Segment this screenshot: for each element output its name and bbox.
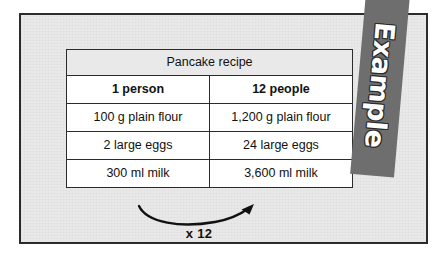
cell-flour-single: 100 g plain flour <box>67 104 210 132</box>
screenshot-root: Pancake recipe 1 person 12 people 100 g … <box>0 0 448 262</box>
column-header-12-people: 12 people <box>210 76 353 104</box>
table-row: 100 g plain flour 1,200 g plain flour <box>67 104 353 132</box>
column-header-1-person: 1 person <box>67 76 210 104</box>
scaling-annotation: x 12 <box>129 203 269 253</box>
cell-eggs-scaled: 24 large eggs <box>210 132 353 160</box>
table-row: 2 large eggs 24 large eggs <box>67 132 353 160</box>
cell-milk-scaled: 3,600 ml milk <box>210 160 353 188</box>
table-title-row: Pancake recipe <box>67 50 353 76</box>
cell-milk-single: 300 ml milk <box>67 160 210 188</box>
table-row: 300 ml milk 3,600 ml milk <box>67 160 353 188</box>
table-header-row: 1 person 12 people <box>67 76 353 104</box>
pancake-recipe-table: Pancake recipe 1 person 12 people 100 g … <box>66 49 353 188</box>
example-ribbon-label: Example <box>359 21 401 149</box>
multiplier-label: x 12 <box>129 226 269 241</box>
table-title: Pancake recipe <box>67 50 353 76</box>
cell-flour-scaled: 1,200 g plain flour <box>210 104 353 132</box>
cell-eggs-single: 2 large eggs <box>67 132 210 160</box>
